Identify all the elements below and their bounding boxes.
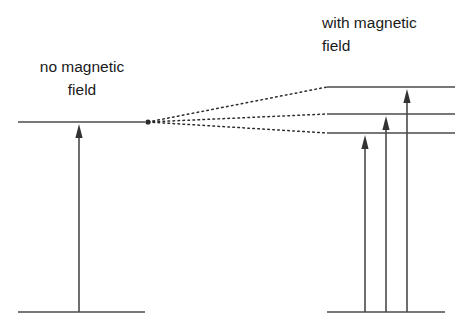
medium-transition-head xyxy=(382,116,389,130)
no-magnetic-field-label-line1: no magnetic xyxy=(40,58,125,75)
diagram-canvas: no magnetic field with magnetic field xyxy=(0,0,470,326)
long-transition xyxy=(403,89,410,312)
splitting-connector-lines xyxy=(145,87,327,133)
short-transition-head xyxy=(361,135,368,149)
right-split-energy-levels xyxy=(327,87,455,133)
single-transition-head xyxy=(75,124,82,138)
no-magnetic-field-label-line2: field xyxy=(68,81,96,98)
left-transition-arrows xyxy=(75,124,82,312)
medium-transition xyxy=(382,116,389,312)
zeeman-effect-diagram: no magnetic field with magnetic field xyxy=(0,0,470,326)
long-transition-head xyxy=(403,89,410,103)
splitting-connector-2 xyxy=(148,114,327,122)
splitting-connector-3 xyxy=(148,122,327,133)
with-magnetic-field-label-line2: field xyxy=(322,37,350,54)
single-transition xyxy=(75,124,82,312)
right-transition-arrows xyxy=(361,89,410,312)
short-transition xyxy=(361,135,368,312)
with-magnetic-field-label-line1: with magnetic xyxy=(321,14,417,31)
left-panel-group xyxy=(18,122,145,312)
right-panel-group xyxy=(327,87,455,312)
splitting-connector-1 xyxy=(148,87,327,122)
